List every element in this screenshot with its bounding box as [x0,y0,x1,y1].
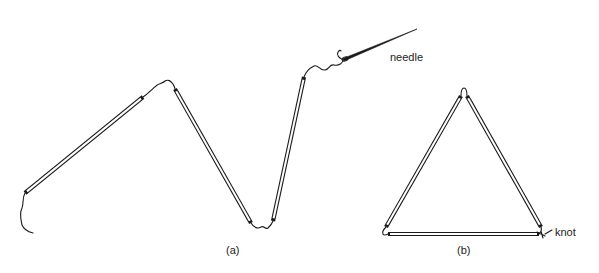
panel-b [383,88,552,238]
panel-b-caption: (b) [457,245,470,256]
thread-segment-1 [143,80,175,97]
panel-a-caption: (a) [226,245,239,256]
needle-label: needle [390,52,423,63]
knot-label: knot [555,227,576,238]
straw-triangle-diagram: .straw-outer { stroke: #1a1a1a; stroke-w… [0,0,599,273]
straw-1 [25,97,143,193]
thread-segment-3 [304,60,343,77]
panel-a [20,29,417,233]
triangle-straw-left [386,96,461,227]
straw-3 [273,77,304,221]
corner-thread-left [383,227,388,235]
straw-2 [175,89,251,223]
knot-icon [537,227,552,238]
triangle-straw-right [467,96,541,227]
thread-loose-end [20,193,33,233]
thread-segment-2 [251,221,273,228]
apex-thread [461,88,467,96]
